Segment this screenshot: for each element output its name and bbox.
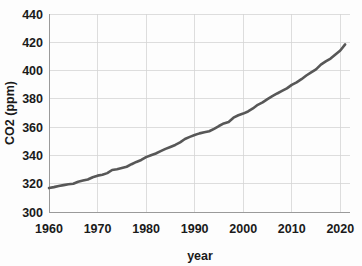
- y-tick-440: 440: [22, 8, 43, 22]
- x-tick-1970: 1970: [84, 222, 112, 236]
- y-tick-420: 420: [22, 36, 43, 50]
- y-tick-380: 380: [22, 92, 43, 106]
- y-tick-300: 300: [22, 206, 43, 220]
- gridlines-horizontal: [49, 14, 350, 212]
- chart-canvas: 300320340360380400420440 196019701980199…: [0, 0, 362, 266]
- y-tick-360: 360: [22, 121, 43, 135]
- x-tick-2010: 2010: [278, 222, 306, 236]
- gridlines-vertical: [49, 14, 340, 212]
- co2-series-line: [49, 44, 345, 188]
- y-tick-400: 400: [22, 64, 43, 78]
- y-tick-labels: 300320340360380400420440: [22, 8, 43, 220]
- x-tick-2000: 2000: [229, 222, 257, 236]
- x-tick-1990: 1990: [181, 222, 209, 236]
- x-tick-2020: 2020: [326, 222, 354, 236]
- y-tick-340: 340: [22, 149, 43, 163]
- x-tick-labels: 1960197019801990200020102020: [35, 222, 354, 236]
- y-axis-title: CO2 (ppm): [3, 81, 17, 145]
- x-axis-title: year: [187, 249, 213, 263]
- co2-line-chart: 300320340360380400420440 196019701980199…: [0, 0, 362, 266]
- y-tick-320: 320: [22, 177, 43, 191]
- x-tick-1980: 1980: [132, 222, 160, 236]
- x-tick-1960: 1960: [35, 222, 63, 236]
